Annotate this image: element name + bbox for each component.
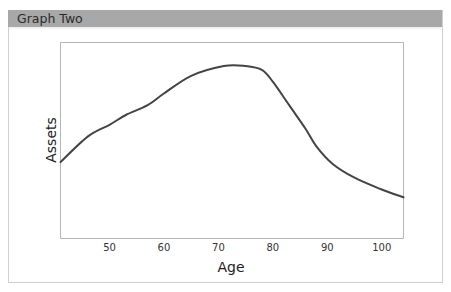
x-tick-label: 60 <box>158 242 171 253</box>
x-tick-label: 100 <box>372 242 391 253</box>
x-axis-label: Age <box>217 259 244 275</box>
x-tick-label: 50 <box>103 242 116 253</box>
x-tick-label: 90 <box>321 242 334 253</box>
line-chart: 5060708090100 Age Assets <box>0 0 451 292</box>
x-tick-label: 70 <box>212 242 225 253</box>
x-tick-label: 80 <box>266 242 279 253</box>
assets-line <box>61 65 404 197</box>
plot-frame <box>61 43 404 239</box>
x-axis-ticks: 5060708090100 <box>103 242 391 253</box>
y-axis-label: Assets <box>43 117 59 163</box>
